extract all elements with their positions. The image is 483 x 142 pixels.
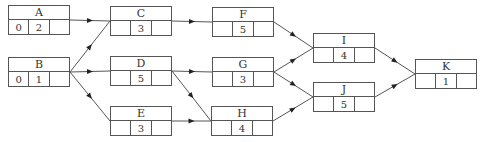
arrowhead-icon [290,31,296,36]
arrowhead-icon [290,81,296,86]
activity-node-i: I4 [313,33,375,63]
arrowhead-icon [87,69,93,74]
earliest-start-cell [111,71,131,85]
activity-node-j: J5 [313,82,375,112]
earliest-finish-cell [457,74,476,88]
arrowhead-icon [189,119,195,124]
duration-cell: 2 [29,20,49,34]
arrowhead-icon [391,57,397,62]
earliest-finish-cell [254,22,273,36]
arrowhead-icon [188,92,194,98]
activity-node-e: E3 [110,106,172,136]
activity-name: A [9,6,69,20]
arrowhead-icon [290,58,296,63]
earliest-start-cell [213,72,233,86]
earliest-finish-cell [253,121,272,135]
duration-cell: 4 [334,48,354,62]
earliest-start-cell [111,121,131,135]
duration-cell: 3 [131,121,151,135]
activity-name: F [213,8,273,22]
activity-name: H [212,107,272,121]
duration-cell: 5 [334,97,354,111]
arrowhead-icon [189,19,195,24]
earliest-finish-cell [152,21,171,35]
earliest-start-cell [111,21,131,35]
earliest-start-cell [314,97,334,111]
arrowhead-icon [289,107,295,112]
duration-cell: 3 [131,21,151,35]
earliest-start-cell: 0 [9,20,29,34]
earliest-finish-cell [152,71,171,85]
activity-name: K [416,60,476,74]
activity-name: J [314,83,374,97]
activity-node-g: G3 [212,57,274,87]
earliest-finish-cell [50,20,69,34]
earliest-start-cell [416,74,436,88]
earliest-start-cell [314,48,334,62]
activity-name: B [9,58,69,72]
activity-node-f: F5 [212,7,274,37]
earliest-finish-cell [50,72,69,86]
earliest-start-cell [212,121,232,135]
activity-node-b: B01 [8,57,70,87]
duration-cell: 5 [131,71,151,85]
activity-node-d: D5 [110,56,172,86]
arrowhead-icon [87,18,93,23]
activity-node-k: K1 [415,59,477,89]
earliest-finish-cell [152,121,171,135]
duration-cell: 1 [29,72,49,86]
activity-name: C [111,7,171,21]
earliest-finish-cell [355,97,374,111]
arrowhead-icon [189,69,195,74]
activity-name: I [314,34,374,48]
duration-cell: 1 [436,74,456,88]
duration-cell: 4 [232,121,252,135]
activity-node-c: C3 [110,6,172,36]
earliest-start-cell [213,22,233,36]
activity-name: E [111,107,171,121]
earliest-start-cell: 0 [9,72,29,86]
arrowhead-icon [86,44,92,50]
duration-cell: 3 [233,72,253,86]
activity-node-a: A02 [8,5,70,35]
activity-name: G [213,58,273,72]
activity-name: D [111,57,171,71]
duration-cell: 5 [233,22,253,36]
earliest-finish-cell [355,48,374,62]
earliest-finish-cell [254,72,273,86]
activity-node-h: H4 [211,106,273,136]
